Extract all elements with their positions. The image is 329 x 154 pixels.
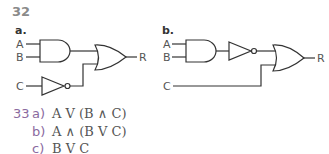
- not-gate-icon: [42, 77, 64, 95]
- pin-c: C: [16, 80, 24, 93]
- question-number-33: 33: [13, 106, 30, 121]
- or-gate-icon: [95, 45, 126, 70]
- and-gate-icon: [186, 40, 216, 62]
- answer-expression-a: A V (B ∧ C): [52, 106, 126, 121]
- answer-label-b: b): [32, 124, 45, 139]
- or-gate-icon: [273, 45, 304, 71]
- circuit-diagram-a: A B C R A B C R: [0, 0, 329, 110]
- pin-r: R: [317, 52, 325, 65]
- answer-label-a: a): [32, 106, 45, 121]
- pin-b: B: [16, 51, 24, 64]
- and-gate-icon: [40, 40, 70, 62]
- answer-expression-b: A ∧ (B V C): [52, 124, 126, 139]
- answer-expression-c: B V C: [52, 141, 89, 154]
- pin-r: R: [139, 51, 147, 64]
- not-gate-icon: [229, 42, 251, 60]
- pin-a: A: [16, 38, 24, 51]
- pin-c: C: [163, 80, 171, 93]
- pin-b: B: [163, 51, 171, 64]
- answer-label-c: c): [32, 141, 44, 154]
- pin-a: A: [163, 38, 171, 51]
